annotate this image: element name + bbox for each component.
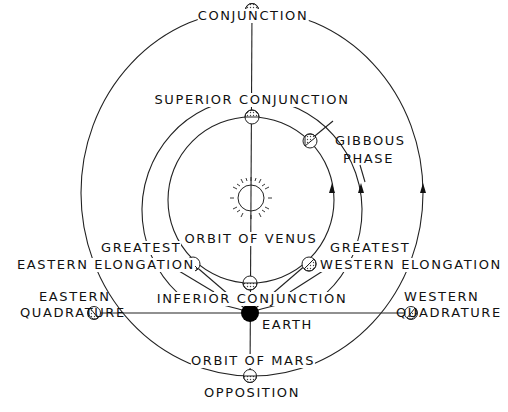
planet-phase-icon <box>303 134 317 148</box>
label-greatest-eastern-line1: GREATEST <box>101 241 181 255</box>
planet-phase-icon <box>245 110 259 124</box>
diagram-graphic <box>0 0 508 412</box>
label-greatest-western-line2: WESTERN ELONGATION <box>320 258 502 272</box>
label-eastern-quadrature-line1: EASTERN <box>39 290 110 304</box>
label-inferior-conjunction: INFERIOR CONJUNCTION <box>157 292 347 306</box>
leader-line <box>360 165 365 182</box>
direction-arrow-icon <box>329 183 426 193</box>
label-greatest-eastern-line2: EASTERN ELONGATION <box>17 258 195 272</box>
label-greatest-western-line1: GREATEST <box>330 241 410 255</box>
planetary-configurations-diagram: CONJUNCTION SUPERIOR CONJUNCTION GIBBOUS… <box>0 0 508 412</box>
planet-phase-icon <box>302 257 316 271</box>
label-conjunction: CONJUNCTION <box>198 9 309 23</box>
label-gibbous-phase-line1: GIBBOUS <box>335 134 406 148</box>
label-gibbous-phase-line2: PHASE <box>343 152 394 166</box>
label-orbit-of-mars: ORBIT OF MARS <box>191 354 315 368</box>
label-superior-conjunction: SUPERIOR CONJUNCTION <box>154 93 349 107</box>
label-earth: EARTH <box>262 318 313 332</box>
planet-phase-icon <box>243 276 257 290</box>
earth-icon <box>241 304 259 322</box>
label-western-quadrature-line1: WESTERN <box>404 290 479 304</box>
label-opposition: OPPOSITION <box>204 386 300 400</box>
conjunction-line <box>250 10 252 378</box>
label-western-quadrature-line2: QUADRATURE <box>396 306 502 320</box>
planet-phase-icon <box>244 370 257 383</box>
label-orbit-of-venus: ORBIT OF VENUS <box>185 232 318 246</box>
label-eastern-quadrature-line2: QUADRATURE <box>20 306 126 320</box>
